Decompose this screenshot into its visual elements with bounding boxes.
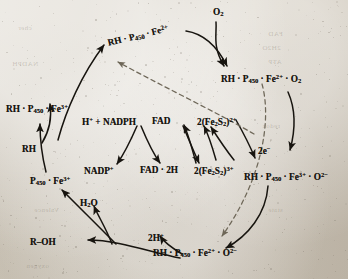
label-water: H2O — [80, 199, 98, 209]
arrow-nadph-to-nadp — [117, 126, 137, 164]
label-fe2s2-2plus: 2(Fe2S2)2+ — [197, 117, 237, 128]
label-nadp-plus: NADP+ — [84, 166, 114, 176]
label-rh-substrate: RH — [22, 145, 36, 154]
label-fad: FAD — [152, 117, 170, 126]
arrow-fe3-superox-to-fe2-superox — [226, 186, 268, 248]
label-h-nadph: H+ + NADPH — [82, 117, 136, 127]
label-rh-p450-fe2-o2: RH · P450 · Fe2+ · O2 — [221, 74, 301, 85]
arrow-p450fe3-to-rhp450fe3 — [40, 124, 46, 172]
arrow-fad2h-to-fad — [184, 125, 196, 163]
scanned-diagram-page: NADPHFAD2H2OATPcherValenceredoxstateoxyg… — [0, 0, 348, 279]
label-fe2s2-3plus: 2(Fe2S2)3+ — [194, 166, 234, 177]
label-o2-top: O2 — [213, 8, 224, 18]
label-rh-p450-fe2-superox: RH · P450 · Fe2+ · O2− — [153, 248, 237, 259]
arrow-oxycomplex-down — [288, 92, 294, 150]
label-rh-p450-fe3: RH · P450 · Fe3+ — [6, 104, 68, 115]
label-r-oh-product: R–OH — [30, 238, 56, 247]
label-two-electrons: 2e− — [258, 146, 271, 156]
arrow-dashed-autoxidation — [222, 84, 266, 236]
label-two-protons: 2H+ — [148, 233, 164, 243]
label-p450-fe3: P450 · Fe3+ — [30, 176, 70, 187]
arrow-to-fad2h — [141, 126, 160, 163]
label-fad-2h: FAD · 2H — [140, 166, 178, 175]
label-rh-p450-fe3-superox: RH · P450 · Fe3+ · O2− — [244, 172, 328, 183]
